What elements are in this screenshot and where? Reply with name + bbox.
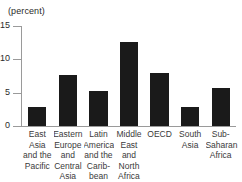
bar: [89, 91, 107, 126]
y-tick: 10: [13, 59, 22, 60]
bar: [120, 42, 138, 126]
y-tick-label: 10: [0, 53, 10, 63]
label-separator: [83, 130, 84, 180]
x-axis-label: Middle East and North Africa: [114, 129, 145, 182]
y-tick-mark: [13, 93, 22, 94]
x-axis-label: Sub- Saharan Africa: [205, 129, 236, 161]
x-axis-label: Latin America and the Carib- bean: [83, 129, 114, 182]
x-axis-labels: East Asia and the PacificEastern Europe …: [22, 129, 236, 181]
y-tick: 0: [13, 126, 22, 127]
bar: [150, 73, 168, 126]
label-separator: [114, 130, 115, 180]
y-tick-label: 15: [0, 20, 10, 30]
label-separator: [53, 130, 54, 180]
bar-chart: (percent) 051015 East Asia and the Pacif…: [0, 0, 242, 182]
x-axis-label: East Asia and the Pacific: [22, 129, 53, 171]
bar: [28, 107, 46, 126]
bar: [212, 88, 230, 126]
label-separator: [205, 130, 206, 180]
x-axis-label: South Asia: [175, 129, 206, 150]
y-tick-label: 5: [5, 87, 10, 97]
y-tick-mark: [13, 126, 22, 127]
y-tick-mark: [13, 26, 22, 27]
bar-series: [22, 26, 236, 126]
y-tick: 5: [13, 93, 22, 94]
y-tick: 15: [13, 26, 22, 27]
bar: [181, 107, 199, 126]
label-separator: [144, 130, 145, 180]
x-axis-label: Eastern Europe and Central Asia: [53, 129, 84, 182]
y-tick-mark: [13, 59, 22, 60]
x-axis-line: [13, 126, 236, 127]
label-separator: [175, 130, 176, 180]
x-axis-label: OECD: [144, 129, 175, 140]
bar: [59, 75, 77, 126]
y-tick-label: 0: [5, 120, 10, 130]
y-axis-unit-label: (percent): [8, 6, 45, 16]
